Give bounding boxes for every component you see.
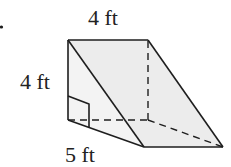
top-length-label: 4 ft [88, 5, 118, 30]
bullet-dot [0, 25, 3, 28]
base-label: 5 ft [65, 142, 95, 167]
height-label: 4 ft [20, 69, 50, 94]
prism-diagram: 4 ft 4 ft 5 ft [0, 0, 231, 167]
